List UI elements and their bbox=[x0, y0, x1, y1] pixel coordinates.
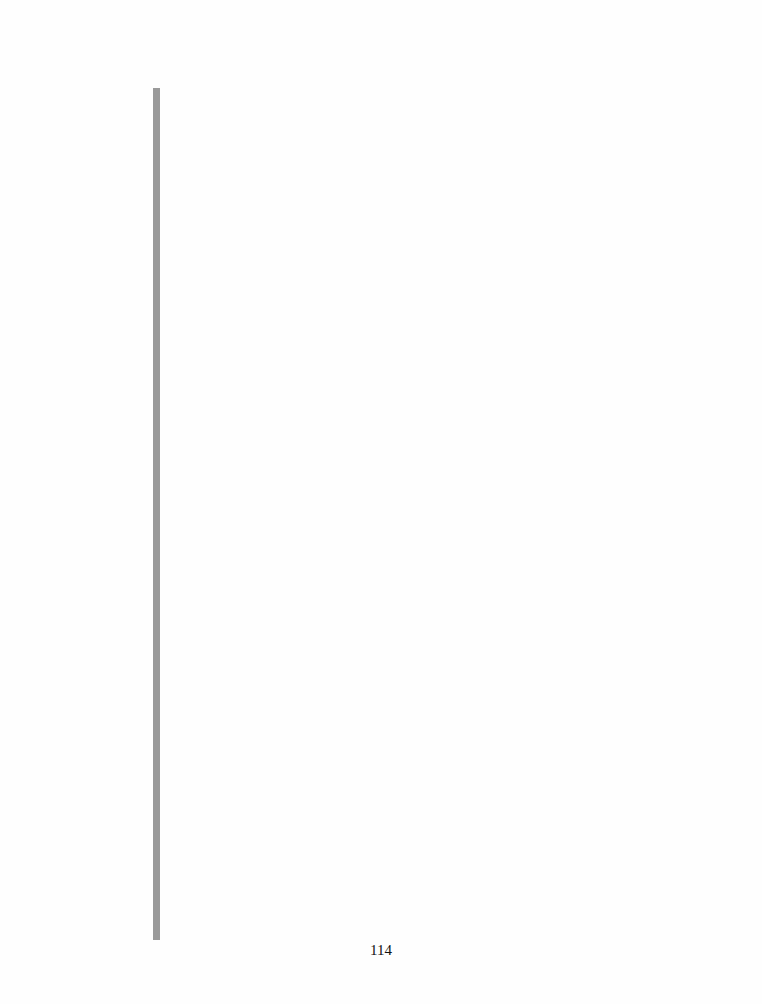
document-page: 114 bbox=[0, 0, 762, 1004]
page-number: 114 bbox=[0, 942, 762, 959]
vertical-margin-rule bbox=[153, 88, 160, 940]
